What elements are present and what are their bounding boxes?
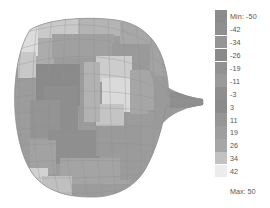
fea-contour-figure: Min: -50 -42 -34 -26 -19 -11 -3 3 bbox=[0, 0, 270, 208]
legend-label: 11 bbox=[230, 115, 238, 124]
legend-swatch bbox=[215, 100, 227, 113]
legend-row: Min: -50 bbox=[213, 10, 270, 23]
legend-label: 19 bbox=[230, 128, 238, 137]
legend-label: 3 bbox=[230, 102, 234, 111]
legend-row: -19 bbox=[213, 62, 270, 75]
legend-swatch bbox=[215, 62, 227, 75]
legend-max-label: Max: 50 bbox=[230, 187, 256, 196]
legend-label: -26 bbox=[230, 51, 241, 60]
legend-row: 19 bbox=[213, 126, 270, 139]
legend-label: -3 bbox=[230, 89, 237, 98]
mesh-svg bbox=[0, 0, 205, 208]
legend-row: 34 bbox=[213, 152, 270, 165]
legend-row: 3 bbox=[213, 100, 270, 113]
legend-row: 26 bbox=[213, 139, 270, 152]
legend-row: -26 bbox=[213, 49, 270, 62]
legend-row: 11 bbox=[213, 113, 270, 126]
contour-plot-canvas bbox=[0, 0, 205, 208]
legend-swatch bbox=[215, 126, 227, 139]
legend-row: -11 bbox=[213, 74, 270, 87]
legend-label: -19 bbox=[230, 64, 241, 73]
legend-label: -34 bbox=[230, 38, 241, 47]
legend-swatch bbox=[215, 152, 227, 165]
legend-row: 42 bbox=[213, 165, 270, 178]
legend-swatch bbox=[215, 49, 227, 62]
legend-swatch bbox=[215, 87, 227, 100]
legend-swatch bbox=[215, 23, 227, 36]
legend-swatch bbox=[215, 10, 227, 23]
legend-label: -11 bbox=[230, 76, 240, 85]
legend-swatch bbox=[215, 113, 227, 126]
legend-label: Min: -50 bbox=[230, 12, 257, 21]
legend-label: -42 bbox=[230, 25, 241, 34]
legend-row: -3 bbox=[213, 87, 270, 100]
legend-label: 42 bbox=[230, 167, 238, 176]
legend-row: -42 bbox=[213, 23, 270, 36]
legend-swatch bbox=[215, 36, 227, 49]
legend-label: 34 bbox=[230, 154, 238, 163]
contour-legend: Min: -50 -42 -34 -26 -19 -11 -3 3 bbox=[213, 10, 270, 200]
legend-label: 26 bbox=[230, 141, 238, 150]
legend-row: -34 bbox=[213, 36, 270, 49]
legend-swatch bbox=[215, 139, 227, 152]
legend-swatch bbox=[215, 74, 227, 87]
legend-swatch bbox=[215, 165, 227, 178]
